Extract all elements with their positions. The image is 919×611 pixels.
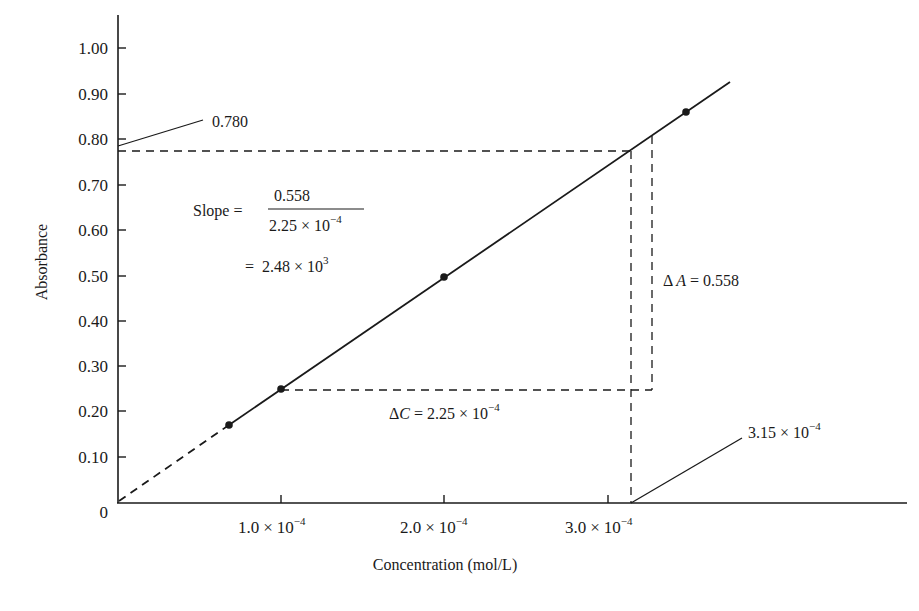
x-tick-label: 3.0×10−4 [565,515,633,537]
y-tick-label: 0 [100,503,109,522]
y-tick-label: 0.30 [78,357,108,376]
x-axis-title: Concentration (mol/L) [373,556,517,574]
concentration-marker-label: 3.15×10−4 [748,420,821,441]
x-tick-labels: 1.0×10−4 2.0×10−4 3.0×10−4 [238,515,633,537]
x-ticks [281,495,608,503]
y-ticks [118,48,126,457]
data-point [225,421,233,429]
y-tick-label: 0.60 [78,221,108,240]
x-tick-label: 2.0×10−4 [400,515,468,537]
data-point [277,385,285,393]
leader-line-315 [631,438,742,503]
y-axis-title: Absorbance [33,224,50,300]
delta-c-label: ΔC=2.25×10−4 [389,401,500,422]
y-tick-label: 1.00 [78,39,108,58]
slope-result: =2.48×103 [245,254,329,275]
y-tick-label: 0.90 [78,85,108,104]
beer-lambert-chart: 1.00 0.90 0.80 0.70 0.60 0.50 0.40 0.30 … [0,0,919,611]
data-point [682,108,690,116]
x-tick-label: 1.0×10−4 [238,515,306,537]
slope-label: Slope = [193,202,242,220]
y-tick-label: 0.80 [78,130,108,149]
y-tick-label: 0.40 [78,312,108,331]
slope-denominator: 2.25×10−4 [269,213,342,234]
absorbance-marker-label: 0.780 [212,113,248,130]
slope-formula: Slope = 0.558 2.25×10−4 =2.48×103 [193,187,364,275]
slope-numerator: 0.558 [274,187,310,204]
y-tick-label: 0.20 [78,402,108,421]
data-point [440,273,448,281]
best-fit-line [229,82,730,425]
y-tick-label: 0.50 [78,267,108,286]
y-tick-label: 0.10 [78,448,108,467]
y-tick-labels: 1.00 0.90 0.80 0.70 0.60 0.50 0.40 0.30 … [78,39,108,522]
leader-line-0780 [118,120,203,146]
extrapolation-line [119,425,229,501]
y-tick-label: 0.70 [78,176,108,195]
delta-a-label: ΔA=0.558 [663,272,739,289]
